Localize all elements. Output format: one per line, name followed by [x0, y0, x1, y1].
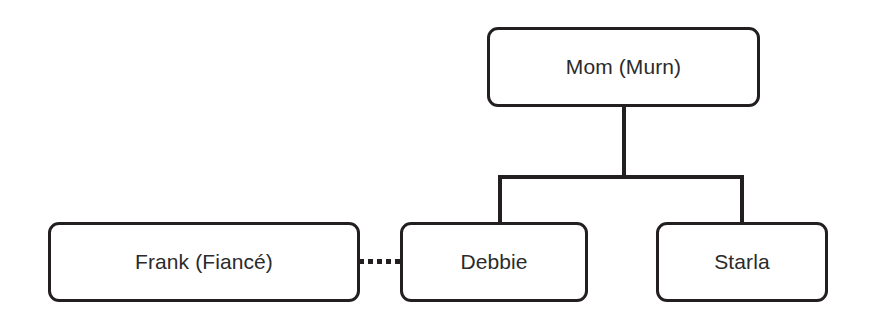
- node-debbie-label: Debbie: [460, 251, 527, 272]
- edge-sibling-bar-to-debbie: [498, 175, 502, 224]
- family-tree-diagram: Mom (Murn) Frank (Fiancé) Debbie Starla: [0, 0, 869, 333]
- node-starla-label: Starla: [714, 251, 769, 272]
- node-frank-label: Frank (Fiancé): [135, 251, 273, 272]
- node-starla[interactable]: Starla: [656, 222, 828, 302]
- node-mom-label: Mom (Murn): [566, 56, 681, 77]
- edge-sibling-bar-to-starla: [740, 175, 744, 224]
- node-frank[interactable]: Frank (Fiancé): [48, 222, 360, 302]
- edge-mom-to-children-trunk: [622, 106, 626, 179]
- node-debbie[interactable]: Debbie: [400, 222, 588, 302]
- edge-frank-to-debbie-dotted: [359, 259, 402, 264]
- node-mom[interactable]: Mom (Murn): [487, 27, 760, 107]
- edge-sibling-bar: [498, 175, 744, 179]
